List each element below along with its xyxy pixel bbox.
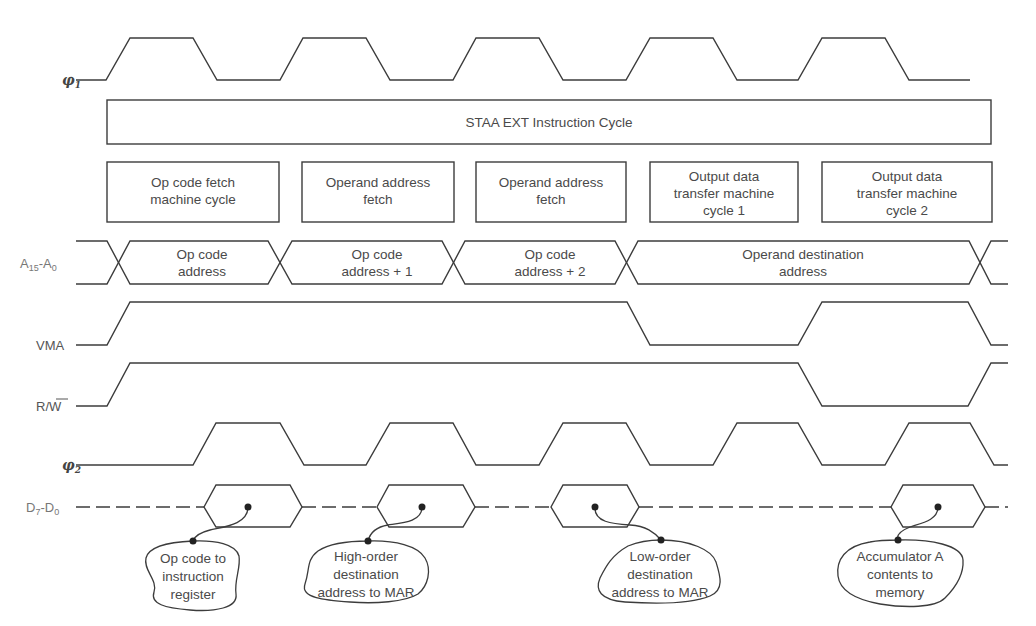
vma-label: VMA: [36, 338, 65, 353]
machine-cycle-label: Output data: [872, 169, 943, 184]
annotation-text: address to MAR: [318, 585, 415, 600]
annotation-text: Op code to: [160, 551, 226, 566]
address-bus-value: address + 1: [342, 264, 413, 279]
annotation-text: destination: [333, 567, 398, 582]
address-bus-value: address + 2: [515, 264, 586, 279]
machine-cycle-label: machine cycle: [150, 192, 236, 207]
annotation-text: register: [170, 587, 216, 602]
address-bus-value: Op code: [176, 247, 227, 262]
address-bus-value: Op code: [351, 247, 402, 262]
rw-waveform: [76, 363, 1008, 406]
annotation-high-order: High-order destination address to MAR: [304, 504, 428, 603]
annotation-text: High-order: [334, 549, 398, 564]
machine-cycle-label: Operand address: [499, 175, 604, 190]
phi1-waveform: [76, 38, 970, 80]
data-bus-waveform: [76, 485, 1008, 527]
annotation-text: memory: [876, 585, 925, 600]
machine-cycle-label: cycle 2: [886, 203, 928, 218]
annotation-text: Low-order: [630, 549, 691, 564]
data-bus-label: D7-D0: [26, 500, 59, 517]
annotation-text: address to MAR: [612, 585, 709, 600]
address-bus-label: A15-A0: [20, 256, 57, 273]
machine-cycle-label: transfer machine: [857, 186, 958, 201]
instruction-cycle-title: STAA EXT Instruction Cycle: [466, 115, 633, 130]
annotation-accumulator: Accumulator A contents to memory: [838, 504, 963, 607]
rw-label: R/W: [36, 399, 62, 414]
address-bus-value: Operand destination: [742, 247, 864, 262]
phi1-label: φ1: [62, 72, 81, 90]
annotation-text: Accumulator A: [856, 549, 943, 564]
address-bus-waveform: Op code address Op code address + 1 Op c…: [76, 241, 1008, 284]
machine-cycle-label: transfer machine: [674, 186, 775, 201]
annotation-text: destination: [627, 567, 692, 582]
address-bus-value: address: [178, 264, 226, 279]
machine-cycle-label: Output data: [689, 169, 760, 184]
data-valid-window: [377, 485, 475, 527]
data-valid-window: [204, 485, 302, 527]
machine-cycle-boxes: Op code fetch machine cycle Operand addr…: [107, 162, 992, 222]
annotation-low-order: Low-order destination address to MAR: [592, 504, 721, 604]
machine-cycle-label: fetch: [363, 192, 392, 207]
machine-cycle-label: Op code fetch: [151, 175, 235, 190]
vma-waveform: [76, 302, 1008, 345]
machine-cycle-label: Operand address: [326, 175, 431, 190]
phi2-label: φ2: [62, 457, 81, 475]
phi2-waveform: [76, 423, 1008, 465]
timing-diagram: φ1 A15-A0 VMA R/W φ2 D7-D0 STAA EXT Inst…: [0, 0, 1036, 626]
annotation-text: contents to: [867, 567, 933, 582]
machine-cycle-label: fetch: [536, 192, 565, 207]
annotation-text: instruction: [162, 569, 224, 584]
annotation-op-code: Op code to instruction register: [146, 504, 252, 611]
signal-labels: φ1 A15-A0 VMA R/W φ2 D7-D0: [20, 72, 81, 517]
address-bus-value: Op code: [524, 247, 575, 262]
address-bus-value: address: [779, 264, 827, 279]
machine-cycle-label: cycle 1: [703, 203, 745, 218]
